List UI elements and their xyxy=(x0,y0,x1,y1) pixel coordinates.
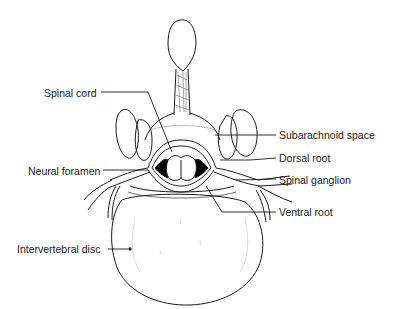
intervertebral-disc xyxy=(112,194,263,305)
label-dorsal-root: Dorsal root xyxy=(279,152,330,164)
label-ventral-root: Ventral root xyxy=(279,206,333,218)
right-facet xyxy=(231,110,257,156)
spine-illustration xyxy=(0,0,393,309)
label-neural-foramen: Neural foramen xyxy=(28,165,100,177)
label-subarachnoid-space: Subarachnoid space xyxy=(279,129,375,141)
label-spinal-cord: Spinal cord xyxy=(44,87,97,99)
label-spinal-ganglion: Spinal ganglion xyxy=(279,174,351,186)
spinous-process xyxy=(168,20,196,71)
label-intervertebral-disc: Intervertebral disc xyxy=(17,243,100,255)
